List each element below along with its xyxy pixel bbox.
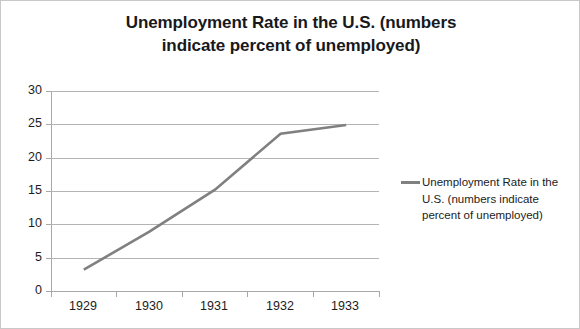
y-tick-mark-20 [46,158,51,159]
x-tick-label-1931: 1931 [179,299,249,313]
x-tick-mark-0 [51,291,52,297]
plot-area [51,91,379,291]
y-tick-mark-15 [46,191,51,192]
y-tick-mark-30 [46,91,51,92]
chart-title: Unemployment Rate in the U.S. (numbers i… [61,11,521,58]
y-tick-label-30: 30 [16,83,42,97]
chart-title-line-2: indicate percent of unemployed) [61,34,521,57]
x-tick-label-1930: 1930 [114,299,184,313]
x-tick-mark-1 [116,291,117,297]
y-tick-label-15: 15 [16,183,42,197]
y-tick-label-0: 0 [16,283,42,297]
chart-container: Unemployment Rate in the U.S. (numbers i… [0,0,580,329]
x-tick-mark-3 [247,291,248,297]
x-tick-mark-2 [182,291,183,297]
unemployment-rate-line [84,125,346,270]
y-tick-label-5: 5 [16,250,42,264]
chart-title-line-1: Unemployment Rate in the U.S. (numbers [61,11,521,34]
data-series-line [51,91,379,291]
y-tick-mark-5 [46,258,51,259]
y-tick-mark-10 [46,224,51,225]
legend-label-line-3: percent of unemployed) [422,207,573,224]
chart-legend: Unemployment Rate in the U.S. (numbers i… [401,174,573,224]
legend-label-line-1: Unemployment Rate in the [422,174,573,191]
y-tick-mark-25 [46,124,51,125]
x-tick-mark-4 [313,291,314,297]
legend-entry-label: Unemployment Rate in the U.S. (numbers i… [422,174,573,224]
legend-color-swatch [401,181,420,184]
x-axis-line [51,291,380,292]
x-tick-label-1932: 1932 [245,299,315,313]
y-tick-label-20: 20 [16,150,42,164]
x-tick-label-1929: 1929 [48,299,118,313]
legend-label-line-2: U.S. (numbers indicate [422,191,573,208]
x-tick-mark-5 [379,291,380,297]
x-tick-label-1933: 1933 [310,299,380,313]
y-tick-label-25: 25 [16,116,42,130]
y-tick-label-10: 10 [16,216,42,230]
y-axis-labels: 30 25 20 15 10 5 0 [14,91,42,291]
